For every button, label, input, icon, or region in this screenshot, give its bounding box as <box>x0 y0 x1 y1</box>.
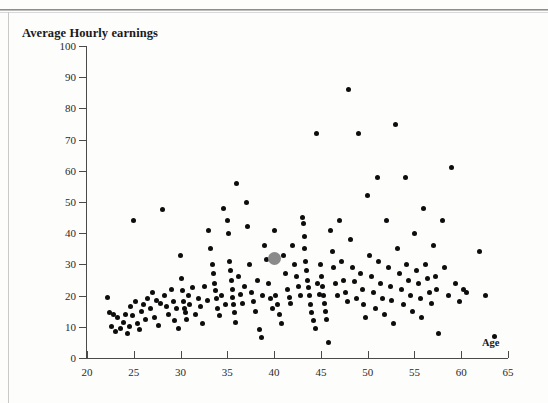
data-point <box>382 312 387 317</box>
data-point <box>234 181 239 186</box>
data-point <box>162 293 167 298</box>
data-point <box>477 249 482 254</box>
data-point <box>143 317 148 322</box>
data-point <box>423 262 428 267</box>
data-point <box>440 218 445 223</box>
data-point <box>183 310 188 315</box>
data-point <box>288 301 293 306</box>
data-point <box>356 131 361 136</box>
data-point <box>318 262 323 267</box>
data-point <box>431 243 436 248</box>
data-point <box>343 290 348 295</box>
data-point <box>361 302 366 307</box>
data-point <box>341 278 346 283</box>
data-point <box>371 290 376 295</box>
data-point <box>160 207 165 212</box>
data-point <box>358 271 363 276</box>
data-point <box>296 284 301 289</box>
x-tick-label: 25 <box>128 366 139 378</box>
data-point <box>228 268 233 273</box>
data-point <box>180 288 185 293</box>
data-point <box>375 175 380 180</box>
data-point <box>330 249 335 254</box>
data-point <box>178 253 183 258</box>
data-point <box>113 329 118 334</box>
data-point <box>315 281 320 286</box>
data-point <box>406 278 411 283</box>
y-tick-mark <box>79 77 87 78</box>
data-point <box>401 302 406 307</box>
y-tick-label: 50 <box>65 196 76 208</box>
data-point <box>130 313 135 318</box>
data-point <box>133 299 138 304</box>
data-point <box>319 274 324 279</box>
y-tick-label: 100 <box>60 40 77 52</box>
data-point <box>335 293 340 298</box>
data-point <box>419 315 424 320</box>
data-point <box>298 293 303 298</box>
data-point <box>105 295 110 300</box>
data-point <box>434 287 439 292</box>
data-point <box>277 312 282 317</box>
data-point <box>275 302 280 307</box>
x-tick-mark <box>368 351 369 358</box>
data-point <box>339 259 344 264</box>
data-point <box>376 259 381 264</box>
x-tick-label: 65 <box>503 366 514 378</box>
data-point <box>217 313 222 318</box>
data-point <box>311 318 316 323</box>
data-point <box>249 290 254 295</box>
data-point <box>306 285 311 290</box>
data-point <box>308 302 313 307</box>
data-point <box>135 321 140 326</box>
data-point <box>152 315 157 320</box>
scatter-plot-figure: Average Hourly earnings 0102030405060708… <box>0 0 548 403</box>
data-point <box>283 271 288 276</box>
y-tick-label: 70 <box>65 134 76 146</box>
y-tick-mark <box>79 202 87 203</box>
data-point <box>328 228 333 233</box>
data-point <box>233 320 238 325</box>
data-point <box>200 321 205 326</box>
x-tick-mark <box>461 351 462 358</box>
data-point <box>121 320 126 325</box>
data-point <box>262 243 267 248</box>
x-axis-title: Age <box>482 337 500 348</box>
data-point <box>196 296 201 301</box>
data-point <box>219 293 224 298</box>
data-point <box>391 321 396 326</box>
data-point <box>137 327 142 332</box>
data-point <box>337 218 342 223</box>
data-point <box>179 276 184 281</box>
data-point <box>414 268 419 273</box>
data-point <box>171 299 176 304</box>
data-point <box>172 318 177 323</box>
data-point <box>206 228 211 233</box>
data-point <box>442 265 447 270</box>
data-point <box>257 327 262 332</box>
y-tick-mark <box>79 140 87 141</box>
data-point <box>346 87 351 92</box>
data-point <box>266 281 271 286</box>
data-point <box>166 312 171 317</box>
data-point <box>141 302 146 307</box>
x-tick-label: 60 <box>456 366 467 378</box>
y-tick-label: 80 <box>65 102 76 114</box>
data-point <box>231 302 236 307</box>
y-tick-mark <box>79 233 87 234</box>
data-point <box>305 278 310 283</box>
x-tick-mark <box>181 351 182 358</box>
data-point <box>259 335 264 340</box>
y-tick-label: 40 <box>65 227 76 239</box>
data-point <box>236 274 241 279</box>
data-point <box>393 122 398 127</box>
x-tick-mark <box>321 351 322 358</box>
data-point <box>323 309 328 314</box>
data-point <box>421 206 426 211</box>
x-tick-mark <box>414 351 415 358</box>
data-point <box>214 296 219 301</box>
data-point <box>320 284 325 289</box>
data-point <box>186 293 191 298</box>
data-point <box>389 298 394 303</box>
data-point <box>408 293 413 298</box>
